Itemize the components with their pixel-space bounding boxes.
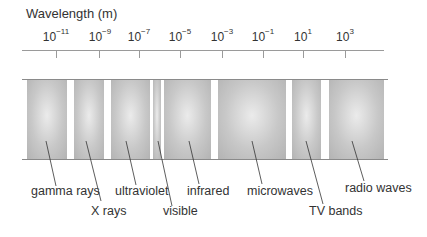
label-microwaves: microwaves — [247, 184, 313, 198]
label-tv-bands: TV bands — [309, 204, 363, 218]
label-x-rays: X rays — [91, 204, 126, 218]
label-radio-waves: radio waves — [345, 181, 412, 195]
label-visible: visible — [163, 204, 198, 218]
label-ultraviolet: ultraviolet — [115, 184, 169, 198]
label-gamma-rays: gamma rays — [31, 184, 100, 198]
label-infrared: infrared — [187, 184, 229, 198]
leader-lines — [0, 0, 427, 237]
